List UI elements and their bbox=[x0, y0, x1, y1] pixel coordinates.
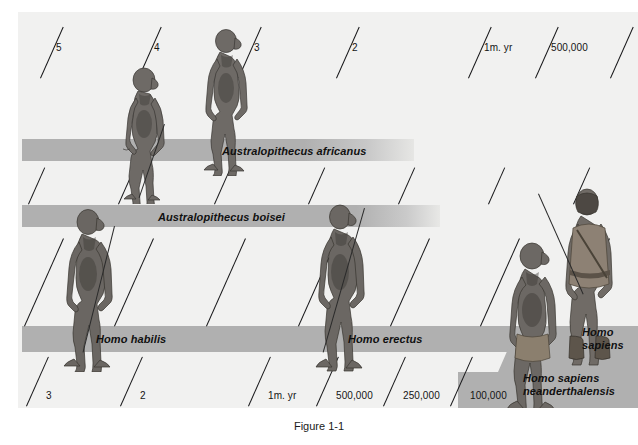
species-label-neanderthalensis-line2: neanderthalensis bbox=[523, 385, 615, 397]
tick-label-bottom-4: 250,000 bbox=[403, 390, 440, 401]
species-label-homo-sapiens-line1: Homo bbox=[582, 326, 614, 338]
tick-line-long-5 bbox=[390, 238, 430, 326]
tick-label-top-5: 500,000 bbox=[551, 42, 588, 53]
timeline-chart-panel: 5 4 3 2 1m. yr 500,000 3 2 1m. yr 500,00 bbox=[18, 12, 638, 408]
tick-label-top-3: 2 bbox=[352, 42, 358, 53]
species-label-australopithecus-africanus: Australopithecus africanus bbox=[222, 145, 366, 157]
figure-caption: Figure 1-1 bbox=[0, 420, 638, 432]
tick-line-top-7 bbox=[610, 27, 634, 79]
tick-line-mid-6 bbox=[488, 167, 505, 204]
tick-label-bottom-1: 2 bbox=[140, 390, 146, 401]
tick-line-mid-5 bbox=[398, 167, 415, 204]
species-label-australopithecus-boisei: Australopithecus boisei bbox=[158, 211, 285, 223]
tick-label-bottom-0: 3 bbox=[46, 390, 52, 401]
tick-label-top-1: 4 bbox=[154, 42, 160, 53]
tick-label-bottom-2: 1m. yr bbox=[268, 390, 296, 401]
species-label-neanderthalensis-line1: Homo sapiens bbox=[523, 372, 599, 384]
tick-line-mid-4 bbox=[308, 167, 325, 204]
tick-line-long-3 bbox=[206, 238, 246, 326]
tick-label-top-4: 1m. yr bbox=[484, 42, 512, 53]
species-label-homo-sapiens-line2: sapiens bbox=[582, 339, 624, 351]
species-label-homo-habilis: Homo habilis bbox=[96, 333, 166, 345]
tick-label-bottom-3: 500,000 bbox=[336, 390, 373, 401]
figure-homo-habilis bbox=[58, 204, 130, 372]
figure-root: 5 4 3 2 1m. yr 500,000 3 2 1m. yr 500,00 bbox=[0, 0, 638, 445]
species-label-homo-erectus: Homo erectus bbox=[348, 333, 423, 345]
tick-line-mid-1 bbox=[28, 167, 45, 204]
tick-label-top-0: 5 bbox=[56, 42, 62, 53]
